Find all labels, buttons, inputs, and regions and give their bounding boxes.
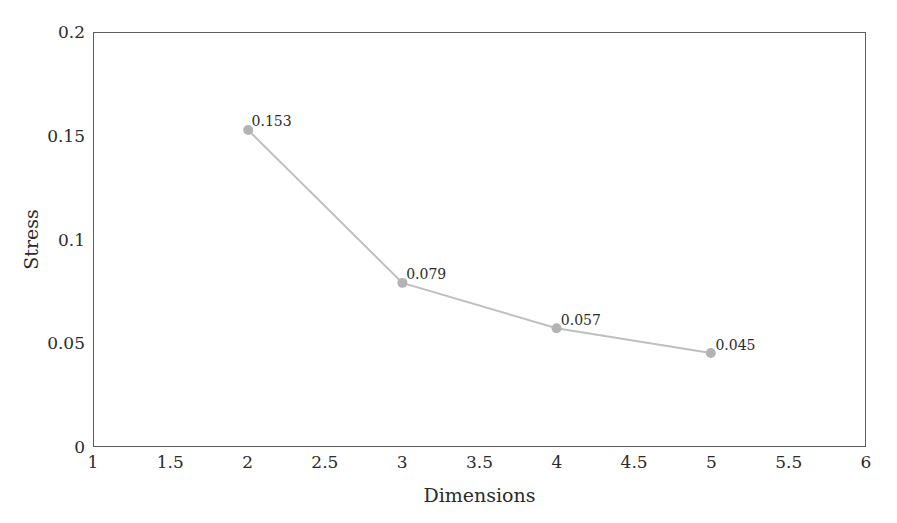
y-axis-tick-label: 0.05 bbox=[47, 335, 85, 352]
x-axis-tick-label: 4.5 bbox=[621, 454, 648, 471]
x-axis-tick-label: 3.5 bbox=[466, 454, 493, 471]
data-point-value-label: 0.153 bbox=[252, 114, 292, 128]
series-canvas bbox=[94, 33, 865, 446]
data-point-value-label: 0.079 bbox=[406, 267, 446, 281]
x-axis-tick-label: 2.5 bbox=[311, 454, 338, 471]
data-point-value-label: 0.057 bbox=[561, 313, 601, 327]
x-axis-tick-label: 1 bbox=[88, 454, 99, 471]
x-axis-tick-label: 3 bbox=[397, 454, 408, 471]
x-axis-tick-label: 5 bbox=[706, 454, 717, 471]
data-point-marker bbox=[706, 348, 716, 358]
x-axis-tick-label: 2 bbox=[242, 454, 253, 471]
x-axis-title: Dimensions bbox=[93, 484, 866, 506]
y-axis-tick-label: 0.15 bbox=[47, 127, 85, 144]
y-axis-tick-label: 0.2 bbox=[58, 24, 85, 41]
y-axis-title: Stress bbox=[14, 32, 48, 447]
x-axis-tick-label: 6 bbox=[861, 454, 872, 471]
x-axis-tick-label: 4 bbox=[551, 454, 562, 471]
x-axis-tick-label: 1.5 bbox=[157, 454, 184, 471]
series-line bbox=[248, 130, 711, 353]
y-axis-tick-label: 0.1 bbox=[58, 231, 85, 248]
chart-figure: 00.050.10.150.2 Stress 11.522.533.544.55… bbox=[0, 0, 897, 523]
plot-area bbox=[93, 32, 866, 447]
data-point-value-label: 0.045 bbox=[715, 338, 755, 352]
y-axis-tick-label: 0 bbox=[74, 439, 85, 456]
x-axis-tick-label: 5.5 bbox=[775, 454, 802, 471]
